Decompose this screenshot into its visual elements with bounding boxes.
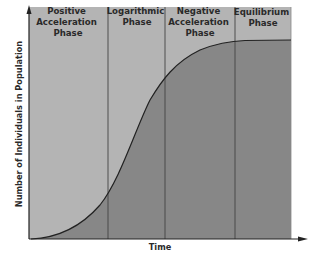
- x-axis-label: Time: [149, 242, 172, 252]
- y-axis-label: Number of Individuals in Population: [14, 41, 24, 207]
- logistic-growth-chart: Positive Acceleration Phase Logarithmic …: [0, 0, 316, 258]
- x-axis-arrow-icon: [298, 237, 308, 242]
